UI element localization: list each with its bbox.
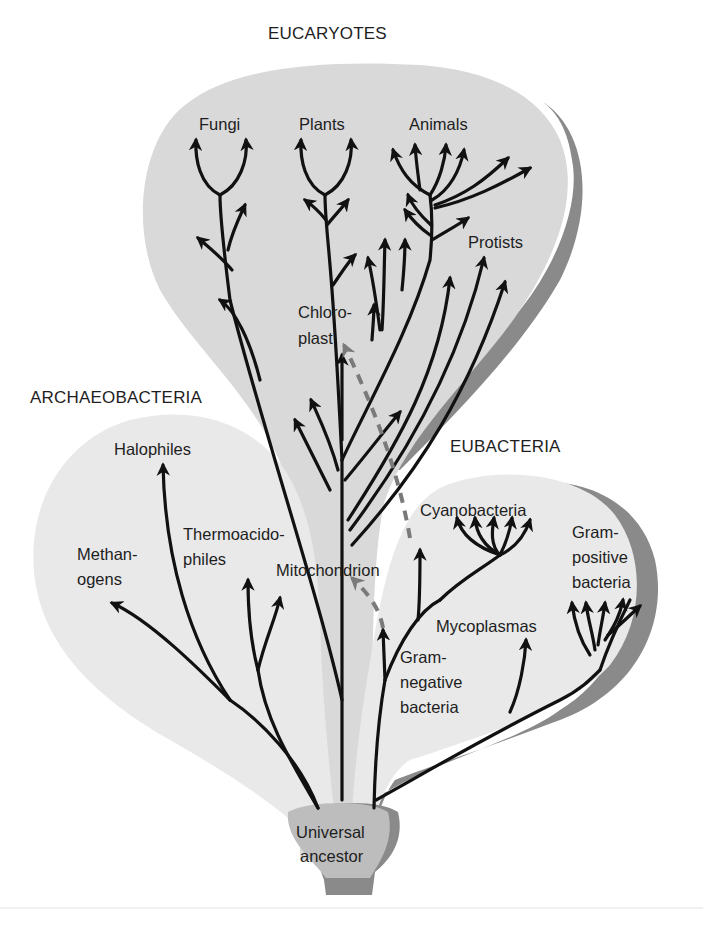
label-methanogens-1: Methan- [77, 545, 138, 563]
label-protists: Protists [468, 233, 523, 251]
label-gram-negative-3: bacteria [400, 698, 460, 716]
domain-label-eubacteria: EUBACTERIA [450, 437, 561, 456]
label-thermoacidophiles-1: Thermoacido- [183, 525, 285, 543]
label-animals: Animals [409, 115, 468, 133]
label-fungi: Fungi [199, 115, 240, 133]
label-universal-ancestor-1: Universal [296, 823, 365, 841]
domain-label-archaeobacteria: ARCHAEOBACTERIA [30, 388, 203, 407]
label-gram-negative-2: negative [400, 673, 462, 691]
label-thermoacidophiles-2: philes [183, 550, 226, 568]
label-methanogens-2: ogens [77, 570, 122, 588]
label-chloroplast-1: Chloro- [298, 303, 352, 321]
label-gram-positive-1: Gram- [572, 523, 619, 541]
label-gram-negative-1: Gram- [400, 648, 447, 666]
label-mycoplasmas: Mycoplasmas [436, 617, 537, 635]
label-plants: Plants [299, 115, 345, 133]
label-mitochondrion: Mitochondrion [276, 561, 380, 579]
label-halophiles: Halophiles [114, 440, 191, 458]
label-universal-ancestor-2: ancestor [300, 847, 364, 865]
label-gram-positive-2: positive [572, 548, 628, 566]
label-gram-positive-3: bacteria [572, 573, 632, 591]
domain-label-eucaryotes: EUCARYOTES [268, 24, 387, 43]
label-chloroplast-2: plast [298, 329, 333, 347]
label-cyanobacteria: Cyanobacteria [420, 501, 527, 519]
tree-of-life-diagram: EUCARYOTES ARCHAEOBACTERIA EUBACTERIA Fu… [0, 0, 703, 934]
